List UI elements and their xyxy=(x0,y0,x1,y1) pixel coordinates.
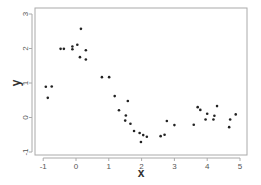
data-point xyxy=(127,100,130,103)
x-tick-label: -1 xyxy=(40,162,48,171)
data-points xyxy=(45,28,238,144)
plot-frame xyxy=(35,8,247,155)
data-point xyxy=(79,56,82,59)
data-point xyxy=(216,105,219,108)
data-point xyxy=(76,43,79,46)
x-tick-label: 1 xyxy=(107,162,112,171)
data-point xyxy=(85,58,88,61)
data-point xyxy=(118,109,121,112)
y-tick-label: 0 xyxy=(21,115,30,120)
data-point xyxy=(50,85,53,88)
data-point xyxy=(85,49,88,52)
x-tick-label: 0 xyxy=(74,162,79,171)
y-tick-label: 3 xyxy=(21,11,30,16)
data-point xyxy=(140,141,143,144)
y-tick-label: 2 xyxy=(21,46,30,51)
data-point xyxy=(63,48,66,51)
data-point xyxy=(125,114,128,117)
x-tick-label: 4 xyxy=(205,162,210,171)
data-point xyxy=(204,118,207,121)
data-point xyxy=(129,122,132,125)
data-point xyxy=(45,85,48,88)
data-point xyxy=(138,132,141,135)
y-axis-title: y xyxy=(9,79,23,86)
data-point xyxy=(142,134,145,137)
data-point xyxy=(59,48,62,51)
data-point xyxy=(46,97,49,100)
data-point xyxy=(234,113,237,116)
data-point xyxy=(228,126,231,129)
data-point xyxy=(71,45,74,48)
data-point xyxy=(80,28,83,31)
data-point xyxy=(229,118,232,121)
x-tick-label: 3 xyxy=(172,162,177,171)
data-point xyxy=(113,95,116,98)
data-point xyxy=(163,133,166,136)
data-point xyxy=(133,130,136,133)
data-point xyxy=(206,112,209,115)
data-point xyxy=(213,114,216,117)
data-point xyxy=(196,106,199,109)
data-point xyxy=(101,76,104,79)
data-point xyxy=(192,123,195,126)
x-tick-label: 5 xyxy=(238,162,243,171)
data-point xyxy=(173,124,176,127)
data-point xyxy=(146,136,149,139)
data-point xyxy=(71,48,74,51)
data-point xyxy=(124,119,127,122)
data-point xyxy=(159,135,162,138)
data-point xyxy=(212,118,215,121)
scatter-chart: -1012345 -10123 x y xyxy=(0,0,261,185)
data-point xyxy=(166,120,169,123)
data-point xyxy=(199,109,202,112)
data-point xyxy=(108,76,111,79)
plot-area xyxy=(35,8,247,155)
y-tick-label: -1 xyxy=(21,148,30,156)
x-axis-title: x xyxy=(138,166,145,180)
